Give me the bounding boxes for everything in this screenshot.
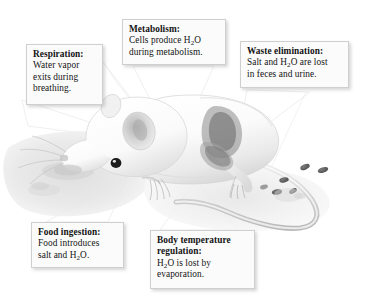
- callout-waste-elimination-heading: Waste elimination:: [247, 46, 343, 57]
- callout-respiration-line-1: Water vapor: [33, 60, 97, 71]
- callout-metabolism-line-1: Cells produce H2O: [129, 35, 220, 46]
- callout-metabolism-line-2: during metabolism.: [129, 47, 220, 58]
- callout-metabolism-heading: Metabolism:: [129, 24, 220, 35]
- callout-waste-elimination-line-2: in feces and urine.: [247, 69, 343, 80]
- figure-container: Respiration: Water vapor exits during br…: [0, 0, 366, 301]
- callout-body-temperature-heading-line-1: Body temperature: [157, 235, 249, 246]
- callout-waste-elimination: Waste elimination: Salt and H2O are lost…: [240, 41, 349, 88]
- callout-metabolism: Metabolism: Cells produce H2O during met…: [122, 19, 226, 65]
- callout-body-temperature-heading-line-2: regulation:: [157, 246, 249, 257]
- callout-food-ingestion: Food ingestion: Food introduces salt and…: [31, 222, 124, 268]
- callout-body-temperature-line-1: H2O is lost by: [157, 258, 249, 269]
- callout-respiration: Respiration: Water vapor exits during br…: [26, 44, 103, 105]
- callout-waste-elimination-line-1: Salt and H2O are lost: [247, 57, 343, 68]
- callout-respiration-line-3: breathing.: [33, 83, 97, 94]
- callout-food-ingestion-line-1: Food introduces: [38, 238, 118, 249]
- callout-respiration-heading: Respiration:: [33, 49, 97, 60]
- mouse-eye: [111, 158, 122, 168]
- callout-food-ingestion-line-2: salt and H2O.: [38, 250, 118, 261]
- callout-respiration-line-2: exits during: [33, 72, 97, 83]
- callout-body-temperature-regulation: Body temperature regulation: H2O is lost…: [150, 230, 255, 289]
- callout-food-ingestion-heading: Food ingestion:: [38, 227, 118, 238]
- callout-body-temperature-line-2: evaporation.: [157, 269, 249, 280]
